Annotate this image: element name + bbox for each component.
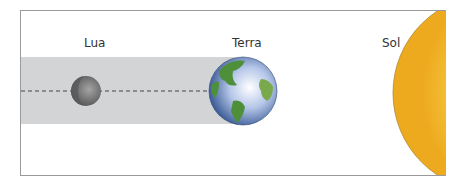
moon-label: Lua xyxy=(84,36,105,50)
sun xyxy=(393,11,446,176)
sun-label: Sol xyxy=(382,36,400,50)
diagram-frame xyxy=(20,10,446,176)
earth xyxy=(209,57,277,125)
moon xyxy=(71,76,101,106)
earth-label: Terra xyxy=(232,36,262,50)
